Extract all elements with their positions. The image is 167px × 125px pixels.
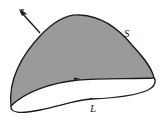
surface-s (11, 15, 154, 106)
normal-vector (22, 13, 40, 33)
normal-label: en (20, 5, 27, 16)
surface-label: S (124, 27, 130, 39)
boundary-label: L (89, 102, 96, 114)
surface-diagram: en S L (0, 0, 167, 125)
